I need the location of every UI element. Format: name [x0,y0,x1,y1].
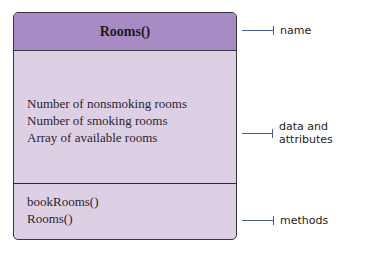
methods-label: methods [280,214,328,227]
class-name-section: Rooms() [14,13,236,51]
attribute-item: Number of smoking rooms [27,112,167,129]
methods-callout: methods [242,214,328,227]
pointer-line [242,220,273,221]
uml-class-box: Rooms() Number of nonsmoking rooms Numbe… [13,12,237,240]
attributes-section: Number of nonsmoking rooms Number of smo… [14,51,236,182]
attribute-item: Array of available rooms [27,129,157,146]
method-item: Rooms() [27,210,73,227]
class-name: Rooms() [100,24,151,40]
attribute-item: Number of nonsmoking rooms [27,95,187,112]
pointer-line [242,133,272,134]
pointer-tick [273,26,274,35]
name-label: name [280,24,311,37]
attributes-label: data and attributes [279,120,382,146]
method-item: bookRooms() [27,193,99,210]
pointer-tick [272,129,273,138]
pointer-tick [273,216,274,225]
attributes-callout: data and attributes [242,120,382,146]
methods-section: bookRooms() Rooms() [14,183,236,239]
pointer-line [242,30,273,31]
name-callout: name [242,24,311,37]
